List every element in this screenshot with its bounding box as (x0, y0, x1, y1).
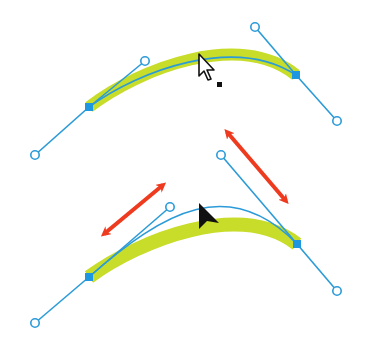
handle-point[interactable] (333, 287, 341, 295)
bezier-diagram (0, 0, 367, 351)
double-arrow-icon (104, 185, 163, 234)
handle-point[interactable] (166, 203, 174, 211)
handle-point[interactable] (31, 319, 39, 327)
handle-point[interactable] (141, 57, 149, 65)
handle-line (35, 107, 89, 155)
handle-point[interactable] (31, 151, 39, 159)
double-arrow-icon (227, 132, 286, 201)
curve-path[interactable] (89, 206, 297, 277)
anchor-point[interactable] (293, 240, 301, 248)
panel-after (31, 151, 341, 327)
anchor-point[interactable] (292, 71, 300, 79)
panel-before (31, 23, 341, 159)
handle-point[interactable] (217, 151, 225, 159)
handle-point[interactable] (333, 117, 341, 125)
arrows (104, 132, 286, 234)
anchor-point[interactable] (85, 103, 93, 111)
handle-line (35, 277, 89, 323)
anchor-point[interactable] (85, 273, 93, 281)
handle-line (296, 75, 337, 121)
handle-line (297, 244, 337, 291)
handle-point[interactable] (251, 23, 259, 31)
